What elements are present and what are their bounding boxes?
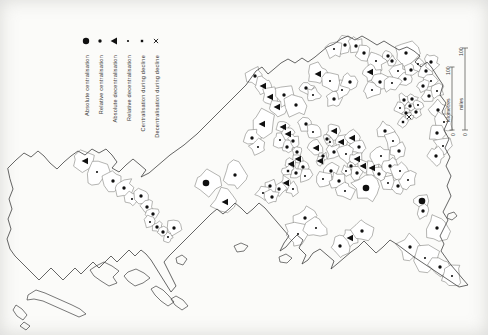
marker-relative-decentralisation xyxy=(329,141,331,143)
island-lewis-harris xyxy=(27,290,86,317)
island-arran xyxy=(176,255,187,265)
marker-relative-decentralisation xyxy=(262,192,264,194)
km-scale-start-label: 0 xyxy=(450,133,456,136)
marker-relative-centralisation xyxy=(253,74,256,77)
urban-region-outline xyxy=(322,73,340,92)
marker-relative-decentralisation xyxy=(436,90,438,92)
marker-relative-decentralisation xyxy=(424,257,426,259)
marker-relative-centralisation xyxy=(325,137,328,140)
marker-relative-decentralisation xyxy=(167,236,169,238)
marker-relative-centralisation xyxy=(434,154,437,157)
marker-relative-decentralisation xyxy=(344,190,346,192)
marker-relative-centralisation xyxy=(294,103,297,106)
marker-relative-centralisation xyxy=(388,164,391,167)
marker-relative-centralisation xyxy=(355,171,358,174)
urban-region-outline xyxy=(384,77,402,93)
legend-symbol-decentralisation-during-decline xyxy=(154,39,158,43)
marker-absolute-centralisation xyxy=(203,180,210,187)
legend-symbol-relative-decentralisation xyxy=(127,40,129,42)
marker-relative-decentralisation xyxy=(345,170,347,172)
island-mull xyxy=(124,269,150,286)
marker-relative-decentralisation xyxy=(292,188,294,190)
marker-relative-centralisation xyxy=(161,230,164,233)
legend-symbol-absolute-centralisation xyxy=(83,38,89,44)
island-isle-of-wight xyxy=(447,212,457,220)
marker-relative-centralisation xyxy=(233,173,236,176)
marker-relative-centralisation xyxy=(349,164,352,167)
marker-relative-centralisation xyxy=(429,60,432,63)
island-uist-south xyxy=(20,322,30,330)
marker-relative-centralisation xyxy=(139,194,142,197)
marker-relative-centralisation xyxy=(291,139,294,142)
marker-relative-centralisation xyxy=(421,209,424,212)
marker-relative-centralisation xyxy=(404,111,407,114)
marker-relative-centralisation xyxy=(332,97,335,100)
marker-relative-centralisation xyxy=(268,184,271,187)
urban-region-outline xyxy=(317,172,332,188)
marker-relative-centralisation xyxy=(304,86,307,89)
marker-relative-centralisation xyxy=(377,172,380,175)
marker-relative-centralisation xyxy=(414,110,417,113)
marker-relative-centralisation xyxy=(424,69,427,72)
marker-relative-decentralisation xyxy=(304,175,306,177)
miles-scale-end-label: 100 xyxy=(458,47,464,56)
marker-relative-decentralisation xyxy=(312,131,314,133)
marker-relative-centralisation xyxy=(410,97,413,100)
marker-relative-centralisation xyxy=(303,216,306,219)
marker-relative-centralisation xyxy=(397,149,400,152)
miles-scale-start-label: 0 xyxy=(462,133,468,136)
legend-symbol-relative-centralisation xyxy=(98,39,101,42)
marker-relative-decentralisation xyxy=(315,227,317,229)
marker-relative-decentralisation xyxy=(375,60,377,62)
marker-relative-centralisation xyxy=(301,165,304,168)
marker-centralisation-during-decline xyxy=(402,121,404,123)
legend-symbol-absolute-decentralisation xyxy=(111,38,117,45)
km-scale-unit-label: kilometres xyxy=(445,98,451,122)
marker-relative-centralisation xyxy=(386,54,389,57)
marker-relative-centralisation xyxy=(277,187,280,190)
marker-relative-centralisation xyxy=(408,245,411,248)
legend-label-relative-decentralisation: Relative decentralisation xyxy=(126,55,132,121)
marker-relative-centralisation xyxy=(348,80,351,83)
island-jura xyxy=(151,286,174,306)
marker-relative-decentralisation xyxy=(149,221,151,223)
marker-relative-centralisation xyxy=(304,122,307,125)
marker-relative-centralisation xyxy=(294,171,297,174)
marker-relative-centralisation xyxy=(270,195,273,198)
marker-relative-decentralisation xyxy=(279,139,281,141)
island-anglesey xyxy=(279,254,292,263)
marker-relative-decentralisation xyxy=(417,63,419,65)
marker-relative-centralisation xyxy=(378,80,381,83)
marker-relative-decentralisation xyxy=(392,140,394,142)
marker-relative-centralisation xyxy=(357,145,360,148)
urban-region-outline xyxy=(308,87,322,101)
marker-relative-centralisation xyxy=(402,98,405,101)
km-scale-end-label: 100 xyxy=(445,66,451,75)
marker-relative-centralisation xyxy=(435,131,438,134)
legend: Absolute centralisation Relative central… xyxy=(83,38,160,138)
marker-relative-centralisation xyxy=(321,154,324,157)
island-uist-north xyxy=(13,305,27,320)
map-svg: Absolute centralisation Relative central… xyxy=(0,0,488,335)
marker-relative-centralisation xyxy=(329,169,332,172)
marker-relative-centralisation xyxy=(343,43,346,46)
marker-relative-centralisation xyxy=(285,145,288,148)
legend-symbol-centralisation-during-decline xyxy=(141,40,143,42)
marker-relative-centralisation xyxy=(295,150,298,153)
marker-relative-decentralisation xyxy=(399,170,401,172)
marker-relative-decentralisation xyxy=(341,89,343,91)
marker-relative-centralisation xyxy=(122,186,125,189)
legend-label-relative-centralisation: Relative centralisation xyxy=(98,55,104,114)
marker-relative-decentralisation xyxy=(329,80,331,82)
island-isle-of-man xyxy=(234,243,248,252)
marker-relative-centralisation xyxy=(145,205,148,208)
miles-scale-unit-label: miles xyxy=(458,97,464,110)
marker-relative-centralisation xyxy=(362,51,365,54)
marker-relative-centralisation xyxy=(390,59,393,62)
marker-relative-centralisation xyxy=(155,225,158,228)
marker-relative-centralisation xyxy=(360,229,363,232)
marker-relative-decentralisation xyxy=(380,155,382,157)
scale-bar: 100 miles 0 100 kilometres 0 xyxy=(445,47,469,136)
marker-relative-decentralisation xyxy=(322,178,324,180)
marker-relative-centralisation xyxy=(403,77,406,80)
